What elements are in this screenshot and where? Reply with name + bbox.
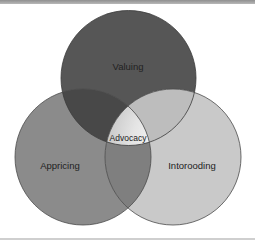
label-advocacy: Advocacy [110, 133, 148, 143]
bottom-border [0, 238, 255, 240]
label-intorooding: Intorooding [168, 160, 216, 171]
label-valuing: Valuing [113, 61, 144, 72]
venn-diagram: Valuing Advocacy Appricing Intorooding [0, 0, 255, 242]
label-appricing: Appricing [40, 160, 80, 171]
